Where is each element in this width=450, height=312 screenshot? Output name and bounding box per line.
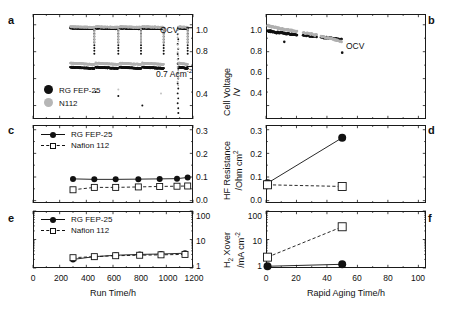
panel-f-xtick-20: 20 [288, 274, 304, 283]
panel-f-ytick-10: 10 [232, 237, 262, 246]
panel-f-ytick-100: 100 [232, 212, 262, 221]
figure-panel-grid: a b c d e f 1.0 0.8 0.4 OCV 0.7 Acm-2 RG… [0, 0, 450, 312]
panel-f-xtick-0: 0 [258, 274, 274, 283]
panel-f-xtick-100: 100 [408, 274, 428, 283]
panel-f-data-layer [0, 0, 450, 312]
panel-f-ytick-1: 1 [232, 262, 262, 271]
panel-f-xtick-40: 40 [319, 274, 335, 283]
row-right-xaxis-title: Rapid Aging Time/h [286, 288, 406, 298]
panel-f-xtick-80: 80 [380, 274, 396, 283]
panel-f-xtick-60: 60 [349, 274, 365, 283]
